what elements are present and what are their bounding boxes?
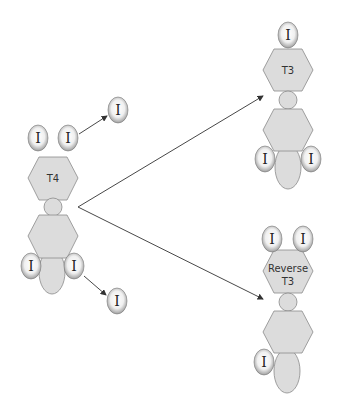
svg-text:I: I	[261, 354, 267, 370]
reverse-t3-label-line1: Reverse	[268, 263, 308, 274]
t4-iodine-inner-right: I	[64, 253, 84, 279]
t3-label: T3	[281, 65, 294, 76]
t4-ether-bridge	[44, 198, 62, 216]
reverse-t3-ether-bridge	[279, 293, 297, 311]
svg-text:I: I	[114, 293, 120, 309]
t3-tail-ellipse	[275, 145, 301, 189]
iodine-release-arrow-top	[79, 116, 107, 134]
iodine-release-arrow-bottom	[84, 276, 106, 295]
t4-iodine-outer-left: I	[28, 125, 48, 151]
t4-to-reverse-t3-arrow	[78, 207, 263, 299]
t3-iodine-outer: I	[278, 22, 298, 48]
released-iodine-top: I	[108, 97, 128, 123]
t4-iodine-outer-right: I	[58, 125, 78, 151]
reverse-t3-tail-ellipse	[274, 349, 300, 393]
svg-text:I: I	[65, 130, 71, 146]
t4-to-t3-arrow	[78, 96, 263, 207]
t3-ether-bridge	[279, 91, 297, 109]
svg-text:I: I	[285, 27, 291, 43]
t3-molecule: T3 I I I	[255, 22, 321, 189]
thyroid-hormone-deiodination-diagram: T4 I I I I I I T3	[0, 0, 337, 409]
reverse-t3-molecule: Reverse T3 I I I	[254, 226, 313, 393]
released-iodine-bottom: I	[107, 288, 127, 314]
svg-text:I: I	[28, 258, 34, 274]
svg-text:I: I	[35, 130, 41, 146]
t4-iodine-inner-left: I	[21, 253, 41, 279]
svg-text:I: I	[115, 102, 121, 118]
t3-iodine-inner-right: I	[301, 146, 321, 172]
svg-text:I: I	[262, 151, 268, 167]
t3-iodine-inner-left: I	[255, 146, 275, 172]
t3-inner-ring	[263, 109, 313, 151]
t4-label: T4	[46, 173, 59, 184]
reverse-t3-iodine-inner-left: I	[254, 349, 274, 375]
svg-text:I: I	[300, 231, 306, 247]
t4-molecule: T4 I I I I	[21, 125, 84, 294]
reverse-t3-iodine-outer-left: I	[262, 226, 282, 252]
reverse-t3-inner-ring	[263, 311, 313, 353]
svg-text:I: I	[308, 151, 314, 167]
svg-text:I: I	[269, 231, 275, 247]
reverse-t3-label-line2: T3	[281, 276, 294, 287]
t4-inner-ring	[28, 215, 78, 258]
svg-text:I: I	[71, 258, 77, 274]
reverse-t3-iodine-outer-right: I	[293, 226, 313, 252]
